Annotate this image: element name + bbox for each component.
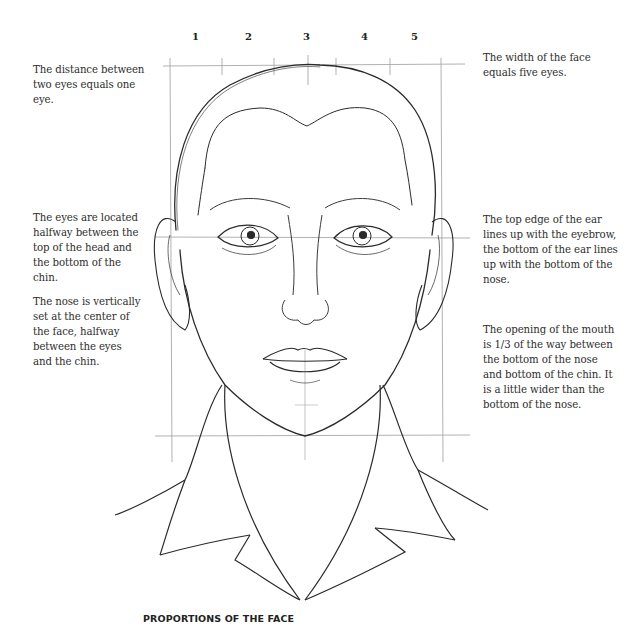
- note-eye-distance-text: The distance between two eyes equals one…: [33, 62, 158, 107]
- note-ear-position: The top edge of the ear lines up with th…: [483, 212, 618, 287]
- note-face-width: The width of the face equals five eyes.: [483, 50, 613, 80]
- note-eye-distance: The distance between two eyes equals one…: [33, 62, 158, 107]
- note-nose-position-text: The nose is vertically set at the center…: [33, 294, 143, 369]
- eyebrows: [210, 198, 400, 210]
- guide-lines: [155, 55, 470, 462]
- note-mouth-position: The opening of the mouth is 1/3 of the w…: [483, 322, 618, 412]
- diagram-title: PROPORTIONS OF THE FACE: [143, 613, 294, 624]
- note-eye-position-text: The eyes are located halfway between the…: [33, 210, 145, 285]
- note-face-width-text: The width of the face equals five eyes.: [483, 50, 613, 80]
- eye-unit-1: 1: [192, 31, 199, 42]
- note-ear-position-text: The top edge of the ear lines up with th…: [483, 212, 618, 287]
- ears: [154, 218, 453, 330]
- nose: [282, 215, 328, 325]
- note-mouth-position-text: The opening of the mouth is 1/3 of the w…: [483, 322, 618, 412]
- eye-unit-2: 2: [245, 31, 252, 42]
- note-eye-position: The eyes are located halfway between the…: [33, 210, 145, 285]
- eye-unit-5: 5: [411, 31, 418, 42]
- note-nose-position: The nose is vertically set at the center…: [33, 294, 143, 369]
- eye-unit-3: 3: [303, 31, 310, 42]
- neck-collar: [115, 385, 488, 600]
- eye-unit-4: 4: [361, 31, 368, 42]
- eyes: [218, 225, 392, 254]
